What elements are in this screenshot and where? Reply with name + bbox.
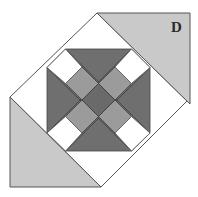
- corner-label: D: [171, 19, 182, 35]
- quilt-block-diagram: D: [0, 0, 198, 197]
